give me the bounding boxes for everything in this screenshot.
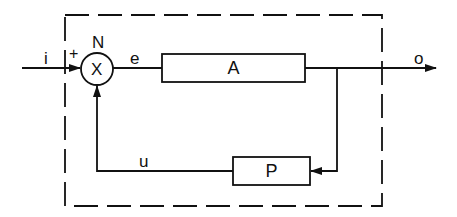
input-label: i xyxy=(44,50,48,67)
feedback-label: u xyxy=(139,153,148,170)
block-p-label: P xyxy=(233,157,310,185)
junction-label: N xyxy=(92,34,104,51)
feedback-branch xyxy=(311,68,337,171)
junction-symbol: X xyxy=(91,61,102,78)
output-label: o xyxy=(414,50,423,67)
block-a-label: A xyxy=(162,54,305,82)
system-boundary xyxy=(65,15,382,206)
feedback-path xyxy=(97,86,233,171)
error-label: e xyxy=(130,50,139,67)
diagram-canvas xyxy=(0,0,457,217)
plus-sign: + xyxy=(69,46,78,62)
